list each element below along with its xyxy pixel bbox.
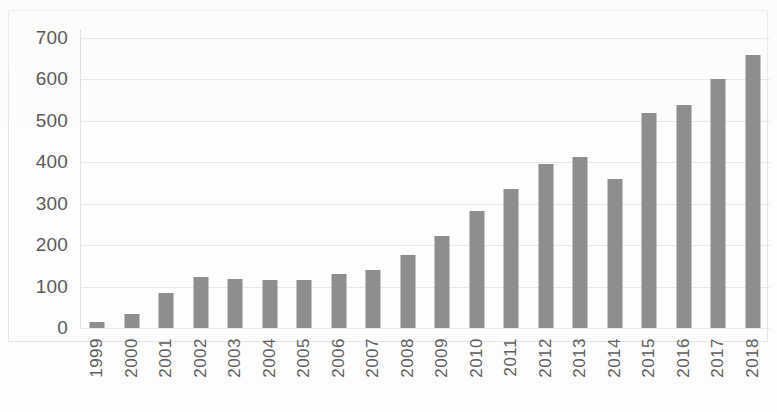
y-tick-label: 300 (10, 194, 68, 213)
bar[interactable] (573, 157, 588, 328)
x-tick-label: 2002 (192, 338, 209, 378)
x-tick-label: 1999 (88, 338, 105, 378)
gridline (80, 328, 770, 329)
bar[interactable] (297, 280, 312, 328)
bar-slot (701, 30, 736, 328)
y-tick-label: 200 (10, 235, 68, 254)
bar[interactable] (504, 189, 519, 328)
x-tick-label: 2012 (537, 338, 554, 378)
bar-slot (287, 30, 322, 328)
y-tick-label: 700 (10, 28, 68, 47)
x-tick-label: 2013 (571, 338, 588, 378)
bar[interactable] (331, 274, 346, 328)
bar-slot (149, 30, 184, 328)
bar-slot (460, 30, 495, 328)
bar-slot (667, 30, 702, 328)
x-tick-label: 2014 (606, 338, 623, 378)
bar[interactable] (711, 79, 726, 328)
bar[interactable] (745, 55, 760, 328)
bar-slot (736, 30, 771, 328)
bar-slot (598, 30, 633, 328)
bar[interactable] (366, 270, 381, 328)
bar[interactable] (676, 105, 691, 328)
bar[interactable] (538, 164, 553, 328)
x-tick-label: 2005 (295, 338, 312, 378)
x-tick-label: 2007 (364, 338, 381, 378)
x-tick-label: 2004 (261, 338, 278, 378)
bars-group (80, 30, 770, 328)
y-tick-label: 100 (10, 277, 68, 296)
y-tick-label: 600 (10, 69, 68, 88)
bar-slot (322, 30, 357, 328)
x-tick-label: 2000 (123, 338, 140, 378)
bar[interactable] (228, 279, 243, 328)
bar[interactable] (262, 280, 277, 328)
bar-slot (391, 30, 426, 328)
x-tick-label: 2018 (744, 338, 761, 378)
bar-slot (80, 30, 115, 328)
bar-chart: 0100200300400500600700 19992000200120022… (0, 0, 777, 412)
bar-slot (563, 30, 598, 328)
bar[interactable] (159, 293, 174, 328)
bar-slot (632, 30, 667, 328)
bar[interactable] (607, 179, 622, 328)
bar[interactable] (400, 255, 415, 328)
x-tick-label: 2015 (640, 338, 657, 378)
x-tick-label: 2016 (675, 338, 692, 378)
x-tick-label: 2011 (502, 338, 519, 377)
bar-slot (184, 30, 219, 328)
bar-slot (115, 30, 150, 328)
bar[interactable] (90, 322, 105, 328)
y-tick-label: 0 (10, 318, 68, 337)
bar[interactable] (642, 113, 657, 328)
bar[interactable] (469, 211, 484, 328)
y-tick-label: 400 (10, 152, 68, 171)
x-tick-label: 2006 (330, 338, 347, 378)
bar[interactable] (193, 277, 208, 328)
x-tick-label: 2001 (157, 338, 174, 378)
bar-slot (425, 30, 460, 328)
x-tick-label: 2009 (433, 338, 450, 378)
x-tick-label: 2008 (399, 338, 416, 378)
bar-slot (218, 30, 253, 328)
y-tick-label: 500 (10, 111, 68, 130)
x-tick-label: 2003 (226, 338, 243, 378)
bar-slot (529, 30, 564, 328)
bar-slot (356, 30, 391, 328)
x-tick-label: 2010 (468, 338, 485, 378)
bar-slot (494, 30, 529, 328)
bar[interactable] (435, 236, 450, 328)
bar-slot (253, 30, 288, 328)
bar[interactable] (124, 314, 139, 328)
x-tick-label: 2017 (709, 338, 726, 378)
